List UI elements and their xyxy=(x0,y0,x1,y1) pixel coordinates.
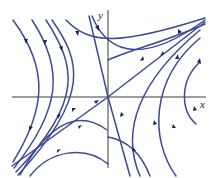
trajectory-left-2 xyxy=(14,20,53,168)
trajectory-top-2 xyxy=(92,16,205,50)
phase-portrait-diagram: x y xyxy=(0,0,216,178)
trajectory-bottom-2 xyxy=(30,153,108,176)
y-axis-label: y xyxy=(97,9,103,21)
trajectory-top-1 xyxy=(66,18,205,39)
trajectory-right-3 xyxy=(184,62,200,124)
trajectory-top-3 xyxy=(108,24,205,60)
x-axis-label: x xyxy=(199,98,205,110)
